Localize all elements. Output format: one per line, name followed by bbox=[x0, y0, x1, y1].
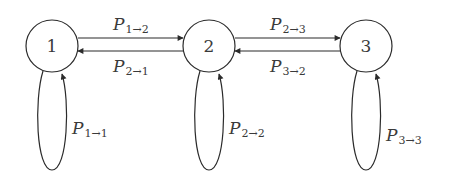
state-1-label: 1 bbox=[47, 36, 58, 56]
label-p-1-1: P1→1 bbox=[71, 118, 108, 140]
label-p-2-1: P2→1 bbox=[112, 56, 149, 78]
self-loop-2 bbox=[195, 71, 224, 170]
state-1: 1 bbox=[26, 20, 78, 72]
state-2-label: 2 bbox=[204, 36, 215, 56]
self-loop-3 bbox=[352, 71, 381, 170]
label-p-2-3: P2→3 bbox=[269, 14, 306, 36]
label-p-2-2: P2→2 bbox=[228, 118, 265, 140]
label-p-3-2: P3→2 bbox=[269, 56, 306, 78]
state-3: 3 bbox=[340, 20, 392, 72]
self-loop-1 bbox=[38, 71, 67, 170]
label-p-3-3: P3→3 bbox=[385, 125, 422, 147]
label-p-1-2: P1→2 bbox=[112, 14, 149, 36]
markov-diagram: 1 2 3 P1→2 P2→1 P2→3 P3→2 P1→1 P2→2 P3→3 bbox=[0, 0, 449, 185]
state-3-label: 3 bbox=[361, 36, 372, 56]
state-2: 2 bbox=[183, 20, 235, 72]
